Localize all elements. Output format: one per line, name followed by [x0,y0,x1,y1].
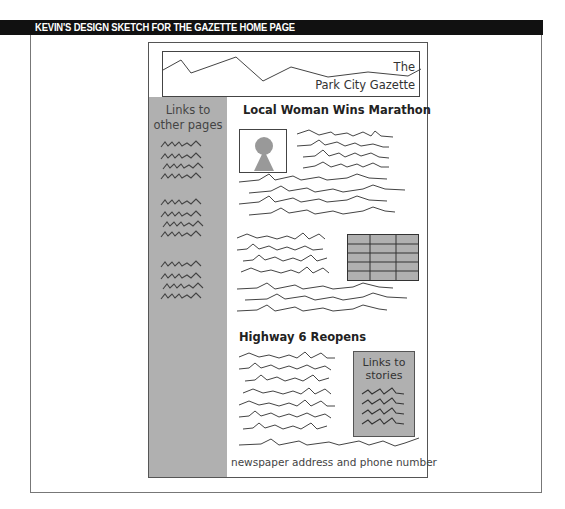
links-to-stories-box: Links to stories [353,351,415,437]
page-sketch: The Park City Gazette Links to other pag… [148,42,428,478]
footer-address-text: newspaper address and phone number [231,456,437,468]
story2-headline: Highway 6 Reopens [239,330,366,344]
story-link-squiggles [354,352,414,436]
figure-title: KEVIN'S DESIGN SKETCH FOR THE GAZETTE HO… [35,21,295,34]
